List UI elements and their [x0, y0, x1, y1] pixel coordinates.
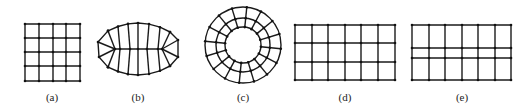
panel-b-lens-mesh	[97, 22, 180, 77]
panel-label-c: (c)	[237, 91, 249, 103]
panel-e-rect-mesh-nonuniform	[411, 24, 513, 82]
panel-label-b: (b)	[132, 91, 145, 103]
panel-a-square-mesh	[24, 23, 82, 83]
panel-label-a: (a)	[46, 91, 58, 103]
mesh-diagram	[0, 0, 528, 108]
panel-c-annular-mesh	[204, 6, 282, 84]
panel-d-rect-mesh	[294, 24, 397, 82]
panel-label-e: (e)	[456, 91, 468, 103]
panel-label-d: (d)	[339, 91, 352, 103]
